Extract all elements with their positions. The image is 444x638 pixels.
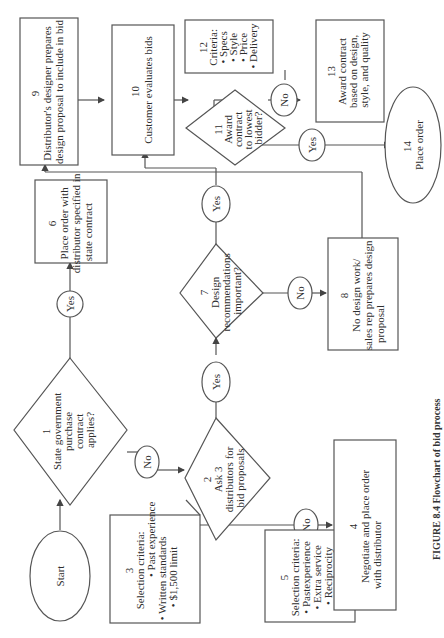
svg-text:Yes: Yes xyxy=(210,374,222,390)
svg-text:No: No xyxy=(278,93,290,107)
node-3-criteria: 3 Selection criteria: • Past experience … xyxy=(110,499,200,623)
node-1-decision: 1 State government purchase contract app… xyxy=(14,358,127,505)
svg-text:Yes: Yes xyxy=(64,296,76,312)
connector-no-11-13: No xyxy=(271,84,297,116)
node-14-place-order: 14 Place order xyxy=(385,87,441,203)
node-13-award-design: 13 Award contract based on design, style… xyxy=(316,20,384,122)
svg-text:Yes: Yes xyxy=(306,137,318,153)
node-10-customer-evaluates: 10 Customer evaluates bids xyxy=(112,25,174,155)
node-11-decision: 11 Award contract to lowest bidder? xyxy=(186,90,285,165)
connector-no-1-2: No xyxy=(135,446,159,478)
connector-yes-11-14: Yes xyxy=(299,129,325,161)
flowchart: Start 1 State government purchase contra… xyxy=(0,0,444,638)
connector-yes-1-6: Yes xyxy=(57,291,83,317)
svg-text:No: No xyxy=(141,455,153,469)
node-12-criteria: 12 Criteria: • Specs • Style • Price • D… xyxy=(185,20,273,73)
node-8-sales-rep-proposal: 8 No design work/ sales rep prepares des… xyxy=(328,238,398,350)
svg-text:No: No xyxy=(294,286,306,300)
figure-caption: FIGURE 8.4 Flowchart of bid process xyxy=(431,398,442,560)
node-7-decision: 7 Design recommendations important? xyxy=(180,244,263,338)
connector-no-7-8: No xyxy=(288,277,312,309)
node-4-negotiate: 4 Negotiate and place order with distrib… xyxy=(334,440,396,610)
node-start: Start xyxy=(30,531,90,621)
connector-yes-2-7: Yes xyxy=(202,362,230,402)
connector-yes-7-9: Yes xyxy=(202,186,230,222)
svg-text:Yes: Yes xyxy=(210,196,222,212)
svg-text:Start: Start xyxy=(54,566,66,587)
node-9-designer-proposal: 9 Distributor's designer prepares design… xyxy=(20,18,78,165)
svg-text:12 Criteria: • Spe: 12 Criteria: • Specs • Style • Price • D… xyxy=(197,23,259,69)
node-6-place-order-state: 6 Place order with distributor specified… xyxy=(35,171,107,273)
